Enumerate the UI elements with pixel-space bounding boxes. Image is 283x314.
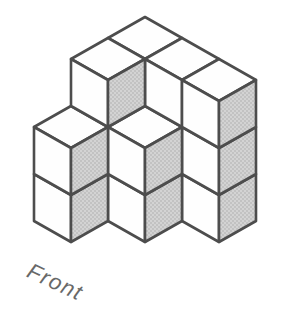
isometric-cube-figure: Front [0, 0, 283, 314]
